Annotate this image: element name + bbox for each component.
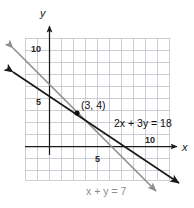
x-tick-5: 5 — [95, 155, 100, 164]
y-axis-label: y — [40, 8, 46, 19]
y-tick-5: 5 — [36, 98, 41, 107]
x-tick-10: 10 — [145, 136, 155, 145]
equation-label-2x-3y-18: 2x + 3y = 18 — [114, 118, 172, 129]
equation-label-x-y-7: x + y = 7 — [86, 186, 126, 197]
graph-figure: y x 10 5 5 10 (3, 4) 2x + 3y = 18 x + y … — [0, 0, 194, 208]
y-tick-10: 10 — [31, 45, 41, 54]
intersection-point-marker — [74, 110, 79, 115]
intersection-point-label: (3, 4) — [81, 100, 106, 111]
x-axis-label: x — [182, 142, 188, 153]
